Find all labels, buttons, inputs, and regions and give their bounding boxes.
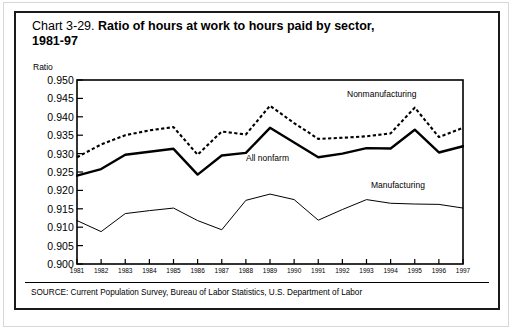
x-axis-tick-label: 1988: [239, 267, 253, 274]
chart-title: Ratio of hours at work to hours paid by …: [98, 19, 374, 33]
series-label-nonmanufacturing: Nonmanufacturing: [347, 89, 416, 99]
x-axis-tick-label: 1985: [166, 267, 180, 274]
source-divider: [25, 282, 489, 283]
series-label-all-nonfarm: All nonfarm: [246, 153, 289, 163]
chart-number: Chart 3-29.: [32, 19, 95, 33]
y-axis-tick-label: 0.905: [47, 240, 74, 252]
y-axis-tick-label: 0.915: [47, 203, 74, 215]
x-axis-tick-label: 1982: [94, 267, 108, 274]
x-axis-tick-labels: 1981198219831984198519861987198819891990…: [76, 267, 464, 281]
x-axis-tick-label: 1983: [118, 267, 132, 274]
x-axis-tick-label: 1995: [408, 267, 422, 274]
y-axis-tick-marks: [77, 80, 83, 264]
y-axis-tick-label: 0.925: [47, 166, 74, 178]
x-axis-tick-label: 1997: [456, 267, 470, 274]
x-axis-tick-label: 1990: [287, 267, 301, 274]
series-label-manufacturing: Manufacturing: [371, 180, 425, 190]
series-line-nonmanufacturing: [77, 106, 463, 158]
x-axis-tick-label: 1993: [359, 267, 373, 274]
plot-border-rect: [77, 80, 463, 264]
y-axis-tick-label: 0.935: [47, 129, 74, 141]
x-axis-tick-label: 1981: [70, 267, 84, 274]
y-axis-tick-labels: 0.9500.9450.9400.9350.9300.9250.9200.915…: [28, 72, 74, 272]
x-axis-tick-label: 1996: [432, 267, 446, 274]
series-line-all-nonfarm: [77, 128, 463, 176]
x-axis-tick-label: 1986: [190, 267, 204, 274]
chart-title-line-1: Chart 3-29. Ratio of hours at work to ho…: [32, 19, 462, 34]
y-axis-tick-label: 0.940: [47, 111, 74, 123]
x-axis-tick-label: 1992: [335, 267, 349, 274]
data-series-group: [77, 106, 463, 232]
x-axis-tick-label: 1989: [263, 267, 277, 274]
y-axis-tick-label: 0.945: [47, 92, 74, 104]
y-axis-tick-label: 0.920: [47, 184, 74, 196]
x-axis-tick-label: 1987: [215, 267, 229, 274]
y-axis-unit-label: Ratio: [33, 62, 53, 72]
x-axis-tick-label: 1984: [142, 267, 156, 274]
chart-plot-svg: [76, 79, 464, 265]
chart-title-years: 1981-97: [32, 34, 462, 49]
x-axis-tick-label: 1994: [383, 267, 397, 274]
chart-title-block: Chart 3-29. Ratio of hours at work to ho…: [32, 19, 462, 49]
series-line-manufacturing: [77, 194, 463, 232]
y-axis-tick-label: 0.910: [47, 221, 74, 233]
x-axis-tick-label: 1991: [311, 267, 325, 274]
plot-area: [76, 79, 464, 265]
y-axis-tick-label: 0.930: [47, 148, 74, 160]
plot-frame-group: [77, 80, 463, 264]
source-note: SOURCE: Current Population Survey, Burea…: [31, 288, 362, 297]
chart-page: Chart 3-29. Ratio of hours at work to ho…: [0, 0, 514, 331]
y-axis-tick-label: 0.950: [47, 74, 74, 86]
